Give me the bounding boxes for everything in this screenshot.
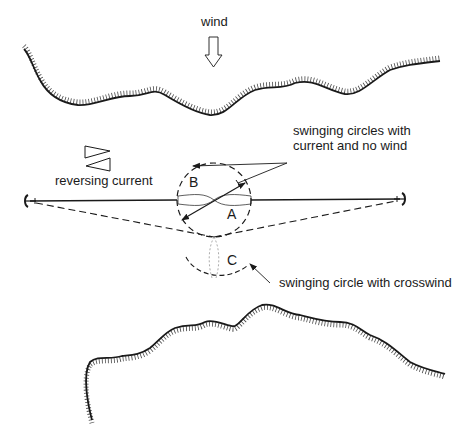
position-B-label: B <box>189 174 198 190</box>
position-C-label: C <box>227 252 237 268</box>
swinging-circles-label-line2: current and no wind <box>293 138 407 153</box>
position-A-label: A <box>227 206 236 222</box>
leader-line-2 <box>238 163 287 183</box>
boat-swing-path <box>178 195 251 206</box>
left-anchor-rode <box>30 200 177 201</box>
reversing-current-label: reversing current <box>55 173 153 188</box>
wind-label: wind <box>201 14 228 29</box>
right-anchor-rode <box>251 199 400 200</box>
left-anchor-icon <box>25 195 36 207</box>
swinging-circle-crosswind <box>186 257 247 275</box>
lower-shoreline <box>86 305 445 423</box>
leader-line-crosswind <box>250 264 270 283</box>
right-anchor-icon <box>394 193 405 205</box>
wind-arrow-icon <box>205 37 222 67</box>
right-crosswind-rode <box>214 201 396 237</box>
boat-crosswind-path <box>209 237 219 278</box>
swinging-crosswind-label: swinging circle with crosswind <box>279 275 452 290</box>
swinging-circles-label-line1: swinging circles with <box>293 123 411 138</box>
leader-line-2-tick <box>236 180 240 186</box>
reversing-current-icon <box>85 146 110 171</box>
leader-line-1 <box>193 163 287 166</box>
upper-shoreline <box>24 46 440 115</box>
left-crosswind-rode <box>36 203 214 237</box>
